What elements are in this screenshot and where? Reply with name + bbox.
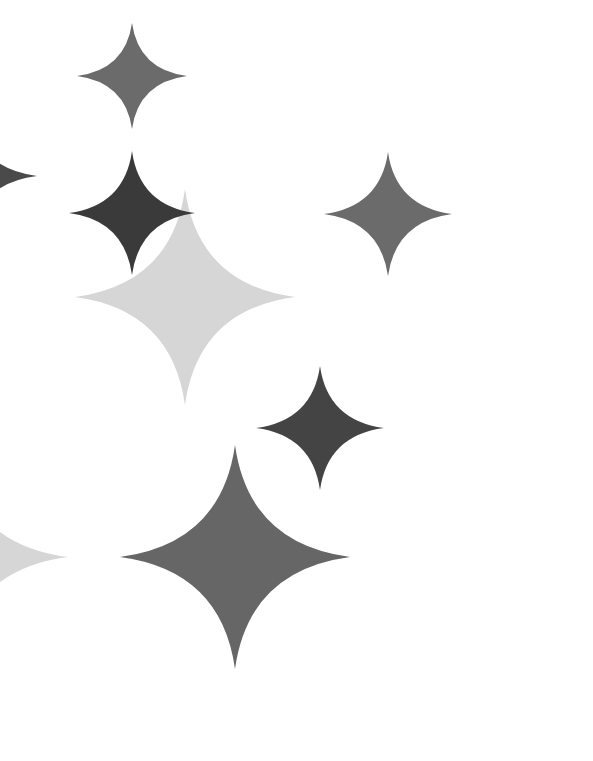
sparkle-top-icon <box>77 23 187 129</box>
sparkles-layer <box>0 0 593 761</box>
sparkle-partial-left-dark-icon <box>0 114 37 238</box>
sparkle-dark-middle-icon <box>256 366 384 490</box>
sparkle-canvas <box>0 0 593 761</box>
sparkle-large-bottom-icon <box>120 445 350 669</box>
sparkle-right-icon <box>324 152 452 276</box>
sparkle-partial-left-light-icon <box>0 449 68 665</box>
